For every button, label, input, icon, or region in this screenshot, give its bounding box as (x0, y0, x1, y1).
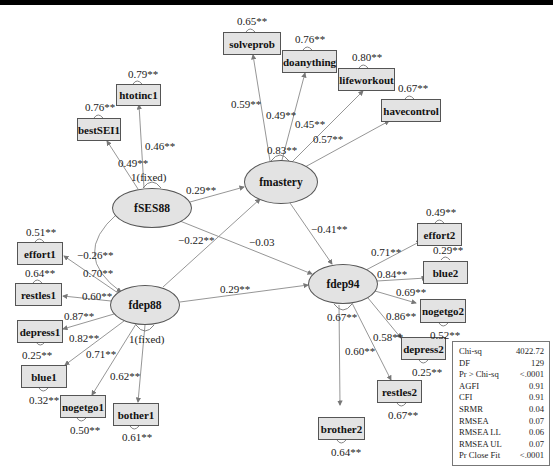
fit-value: 0.04 (529, 404, 544, 416)
loading-blue2: 0.84** (377, 269, 407, 280)
error-effort2: 0.49** (426, 207, 456, 218)
loading-nogetgo2: 0.69** (396, 287, 426, 298)
indicator-nogetgo2: nogetgo2 (420, 299, 466, 323)
error-blue2: 0.29** (433, 245, 463, 256)
error-brother2: 0.64** (331, 447, 361, 458)
loading-brother2: 0.60** (345, 346, 375, 357)
error-havecontrol: 0.67** (398, 83, 428, 94)
indicator-blue2: blue2 (423, 261, 468, 284)
fit-value: 0.91 (529, 392, 544, 404)
indicator-depress1: depress1 (17, 320, 63, 343)
fit-name: RMSEA (459, 416, 489, 428)
loading-effort1: 0.70** (83, 268, 113, 279)
path-mastery-dep94: −0.41** (311, 224, 347, 235)
loading-doanything: 0.49** (266, 110, 296, 121)
fit-row: RMSEA UL0.07 (459, 439, 544, 451)
path-dep88-mastery: −0.22** (178, 235, 214, 246)
indicator-lifeworkout: lifeworkout (338, 68, 395, 91)
fit-name: CFI (459, 392, 472, 404)
fit-value: 0.06 (529, 427, 544, 439)
loading-solveprob: 0.59** (231, 99, 261, 110)
fit-name: DF (459, 358, 470, 370)
error-solveprob: 0.65** (237, 16, 267, 27)
indicator-restles2: restles2 (377, 380, 422, 403)
error-bother1: 0.61** (122, 432, 152, 443)
fit-name: RMSEA UL (459, 439, 502, 451)
loading-effort2: 0.71** (371, 247, 401, 258)
fit-name: AGFI (459, 381, 479, 393)
fit-row: AGFI0.91 (459, 381, 544, 393)
fit-name: Pr > Chi-sq (459, 369, 499, 381)
fit-name: RMSEA LL (459, 427, 501, 439)
fit-row: Pr Close Fit<.0001 (459, 450, 544, 462)
loading-restles2: 0.58** (373, 332, 403, 343)
indicator-brother2: brother2 (318, 417, 365, 440)
cov-ses-dep88: −0.26** (77, 250, 113, 261)
loading-bestSEI1: 0.49** (118, 158, 148, 169)
indicator-effort2: effort2 (417, 223, 462, 246)
fit-value: 129 (531, 358, 544, 370)
error-bestSEI1: 0.76** (85, 102, 115, 113)
loading-htotinc1: 0.46** (145, 141, 175, 152)
fit-value: 0.07 (529, 416, 544, 428)
loading-blue1: 0.82** (69, 333, 99, 344)
latent-fmastery: fmastery (244, 160, 318, 204)
indicator-effort1: effort1 (17, 242, 63, 265)
path-ses-dep94: −0.03 (249, 237, 274, 248)
error-depress1: 0.25** (22, 350, 52, 361)
fit-value: <.0001 (520, 450, 544, 462)
fit-statistics-table: Chi-sq4022.72 DF129 Pr > Chi-sq<.0001 AG… (452, 341, 550, 466)
fit-value: 0.91 (529, 381, 544, 393)
indicator-bother1: bother1 (113, 403, 159, 426)
error-blue1: 0.32** (29, 395, 59, 406)
variance-fdep88: 1(fixed) (129, 334, 164, 345)
path-ses-mastery: 0.29** (186, 185, 216, 196)
error-htotinc1: 0.79** (128, 69, 158, 80)
fit-value: 4022.72 (516, 346, 544, 358)
indicator-restles1: restles1 (15, 283, 62, 306)
loading-bother1: 0.62** (110, 371, 140, 382)
error-effort1: 0.51** (26, 227, 56, 238)
fit-row: DF129 (459, 358, 544, 370)
indicator-nogetgo1: nogetgo1 (60, 395, 106, 418)
indicator-doanything: doanything (282, 50, 337, 73)
indicator-solveprob: solveprob (223, 32, 281, 55)
fit-value: 0.07 (529, 439, 544, 451)
error-restles2: 0.67** (388, 410, 418, 421)
loading-nogetgo1: 0.71** (86, 349, 116, 360)
fit-row: RMSEA0.07 (459, 416, 544, 428)
fit-name: Pr Close Fit (459, 450, 500, 462)
fit-row: CFI0.91 (459, 392, 544, 404)
error-nogetgo2: 0.52** (430, 330, 460, 341)
latent-fdep88: fdep88 (110, 285, 180, 325)
latent-fSES88: fSES88 (112, 188, 192, 228)
error-doanything: 0.76** (295, 34, 325, 45)
error-lifeworkout: 0.80** (352, 52, 382, 63)
fit-name: SRMR (459, 404, 483, 416)
variance-fmastery: 0.83** (267, 145, 297, 156)
loading-lifeworkout: 0.45** (295, 119, 325, 130)
fit-row: Pr > Chi-sq<.0001 (459, 369, 544, 381)
latent-fdep94: fdep94 (308, 264, 378, 304)
fit-name: Chi-sq (459, 346, 482, 358)
loading-restles1: 0.60** (82, 291, 112, 302)
indicator-blue1: blue1 (21, 365, 67, 388)
loading-havecontrol: 0.57** (313, 134, 343, 145)
fit-row: SRMR0.04 (459, 404, 544, 416)
error-restles1: 0.64** (25, 268, 55, 279)
error-nogetgo1: 0.50** (70, 425, 100, 436)
variance-fSES88: 1(fixed) (131, 172, 166, 183)
loading-depress1: 0.87** (64, 311, 94, 322)
fit-value: <.0001 (520, 369, 544, 381)
loading-depress2: 0.86** (386, 311, 416, 322)
indicator-bestSEI1: bestSEI1 (77, 118, 121, 141)
indicator-havecontrol: havecontrol (381, 99, 441, 122)
indicator-htotinc1: htotinc1 (116, 84, 161, 106)
path-dep88-dep94: 0.29** (220, 284, 250, 295)
fit-row: RMSEA LL0.06 (459, 427, 544, 439)
error-depress2: 0.25** (412, 367, 442, 378)
fit-row: Chi-sq4022.72 (459, 346, 544, 358)
variance-fdep94: 0.67** (327, 312, 357, 323)
